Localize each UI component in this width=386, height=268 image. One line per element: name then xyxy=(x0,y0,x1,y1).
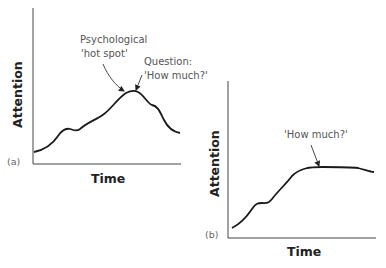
figure: Psychological 'hot spot' Question: 'How … xyxy=(0,0,386,268)
hotspot-label-line1: Psychological xyxy=(80,34,147,45)
x-axis-label-a: Time xyxy=(91,171,125,186)
attention-curve-a xyxy=(34,91,180,152)
hotspot-arrow xyxy=(103,64,124,91)
hotspot-label-line2: 'hot spot' xyxy=(81,48,128,59)
panel-label-a: (a) xyxy=(7,156,20,167)
question-arrow-a xyxy=(136,75,142,90)
panel-a: Psychological 'hot spot' Question: 'How … xyxy=(7,8,208,186)
panel-b: 'How much?' Attention Time (b) xyxy=(205,81,376,259)
question-arrow-b xyxy=(311,145,319,166)
y-axis-label-a: Attention xyxy=(10,61,25,128)
question-label-line2: 'How much?' xyxy=(144,70,208,81)
y-axis-label-b: Attention xyxy=(207,130,222,197)
question-label-b: 'How much?' xyxy=(284,129,348,140)
question-label-line1: Question: xyxy=(144,56,192,67)
attention-curve-b xyxy=(232,167,374,228)
panel-label-b: (b) xyxy=(205,229,218,240)
x-axis-label-b: Time xyxy=(287,244,321,259)
